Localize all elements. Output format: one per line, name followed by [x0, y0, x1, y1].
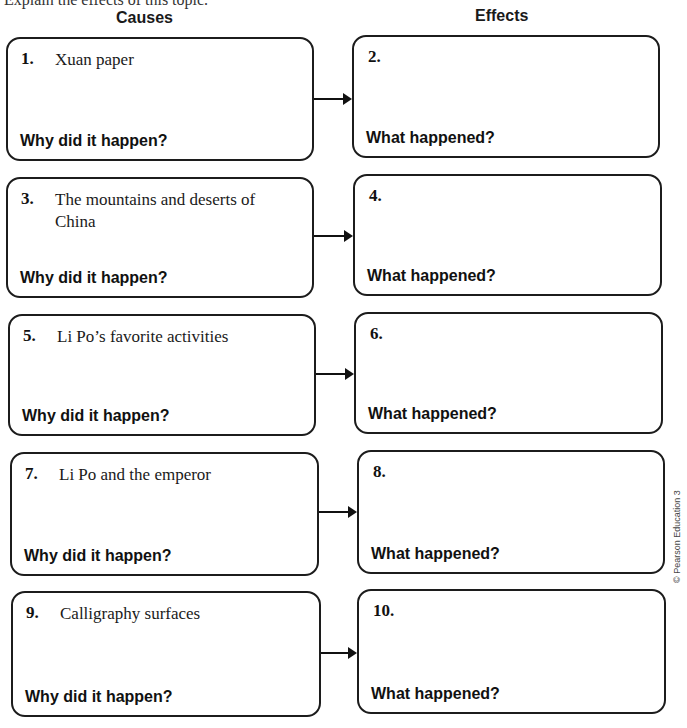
- effect-question: What happened?: [366, 129, 495, 147]
- effect-number: 10.: [373, 601, 394, 621]
- effect-number: 2.: [368, 47, 381, 67]
- effect-question: What happened?: [371, 685, 500, 703]
- effect-box-8[interactable]: 8. What happened?: [357, 450, 665, 574]
- cause-number: 3.: [21, 189, 34, 209]
- effect-box-10[interactable]: 10. What happened?: [357, 589, 666, 714]
- arrow-right-icon: [316, 373, 346, 375]
- effect-question: What happened?: [371, 545, 500, 563]
- cause-box-9[interactable]: 9. Calligraphy surfaces Why did it happe…: [11, 591, 321, 717]
- cause-number: 5.: [23, 326, 36, 346]
- cause-text: Calligraphy surfaces: [60, 603, 301, 625]
- copyright-notice: © Pearson Education 3: [672, 490, 682, 583]
- cause-text: The mountains and deserts of China: [55, 189, 282, 233]
- effect-question: What happened?: [367, 267, 496, 285]
- effect-box-6[interactable]: 6. What happened?: [354, 312, 663, 434]
- effects-header: Effects: [475, 7, 528, 25]
- cause-text: Xuan paper: [55, 49, 294, 71]
- cause-box-5[interactable]: 5. Li Po’s favorite activities Why did i…: [8, 314, 316, 436]
- arrow-right-icon: [321, 652, 349, 654]
- cause-box-3[interactable]: 3. The mountains and deserts of China Wh…: [6, 177, 314, 298]
- cause-box-1[interactable]: 1. Xuan paper Why did it happen?: [6, 37, 314, 161]
- cause-number: 9.: [26, 603, 39, 623]
- cause-question: Why did it happen?: [25, 688, 173, 706]
- cause-question: Why did it happen?: [24, 547, 172, 565]
- effect-number: 6.: [370, 324, 383, 344]
- causes-header: Causes: [116, 9, 173, 27]
- arrow-right-icon: [314, 98, 344, 100]
- arrow-right-icon: [314, 235, 345, 237]
- effect-box-4[interactable]: 4. What happened?: [353, 174, 662, 296]
- cutoff-instruction-text: Explain the effects of this topic.: [4, 0, 208, 9]
- cause-text: Li Po and the emperor: [59, 464, 299, 486]
- cause-text: Li Po’s favorite activities: [57, 326, 296, 348]
- cause-box-7[interactable]: 7. Li Po and the emperor Why did it happ…: [10, 452, 319, 576]
- arrow-right-icon: [319, 511, 349, 513]
- effect-number: 4.: [369, 186, 382, 206]
- cause-number: 1.: [21, 49, 34, 69]
- effect-box-2[interactable]: 2. What happened?: [352, 35, 660, 158]
- cause-question: Why did it happen?: [20, 269, 168, 287]
- cause-question: Why did it happen?: [22, 407, 170, 425]
- cause-number: 7.: [25, 464, 38, 484]
- effect-question: What happened?: [368, 405, 497, 423]
- cause-question: Why did it happen?: [20, 132, 168, 150]
- effect-number: 8.: [373, 462, 386, 482]
